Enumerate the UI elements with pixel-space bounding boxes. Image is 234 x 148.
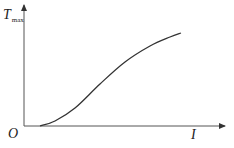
y-axis-label: Tmax <box>3 7 24 24</box>
origin-label: O <box>8 126 18 142</box>
data-curve <box>40 33 181 126</box>
y-label-main: T <box>3 7 11 22</box>
x-axis-label: I <box>191 127 196 143</box>
y-label-subscript: max <box>12 16 24 24</box>
chart-canvas <box>0 0 234 148</box>
